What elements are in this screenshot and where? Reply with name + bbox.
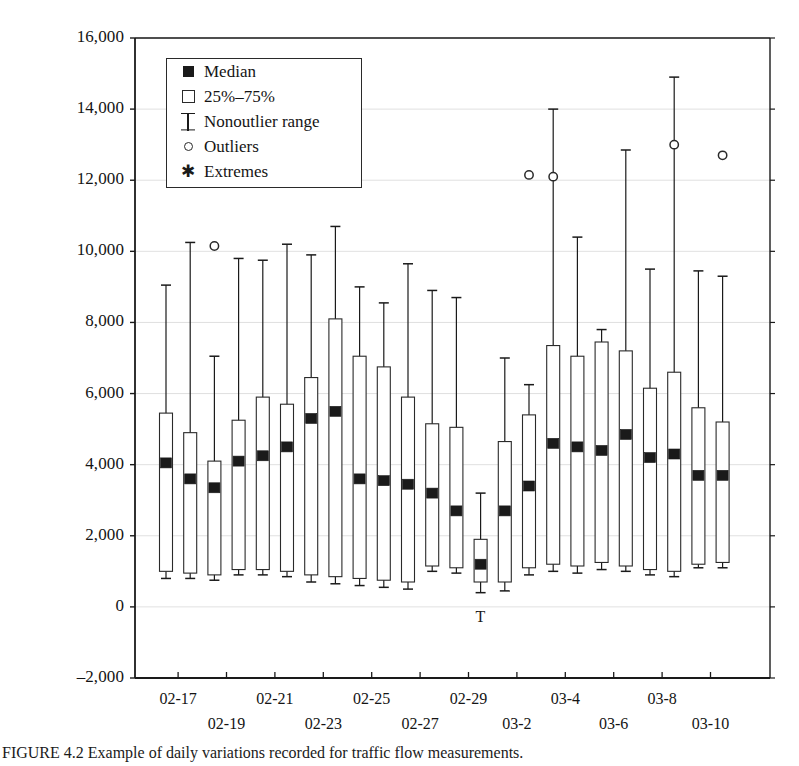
iqr-box xyxy=(281,404,294,571)
y-tick-label: 0 xyxy=(18,596,124,616)
x-tick-label: 02-19 xyxy=(187,715,267,733)
iqr-box xyxy=(692,408,705,564)
x-tick-label: 03-2 xyxy=(477,715,557,733)
iqr-box xyxy=(377,367,390,580)
median-marker xyxy=(378,476,389,486)
y-tick-label: 8,000 xyxy=(18,311,124,331)
y-tick-label: 2,000 xyxy=(18,525,124,545)
filled-square-icon xyxy=(176,66,200,77)
iqr-box xyxy=(668,372,681,571)
iqr-box xyxy=(571,356,584,566)
median-marker xyxy=(572,442,583,452)
iqr-box xyxy=(644,388,657,569)
box-plot-item xyxy=(619,150,632,571)
median-marker xyxy=(209,483,220,493)
median-marker xyxy=(185,474,196,484)
y-tick-label: 14,000 xyxy=(18,98,124,118)
median-marker xyxy=(403,479,414,489)
x-tick-label: 02-21 xyxy=(235,690,315,708)
median-marker xyxy=(620,429,631,439)
iqr-box xyxy=(619,351,632,566)
box-plot-item xyxy=(450,298,463,574)
legend-label-quartiles: 25%–75% xyxy=(204,87,275,107)
box-plot-item xyxy=(426,290,439,571)
box-plot-item xyxy=(184,242,197,578)
box-plot-item xyxy=(692,271,705,568)
median-marker xyxy=(282,442,293,452)
iqr-box xyxy=(184,433,197,573)
y-tick-label: –2,000 xyxy=(18,667,124,687)
box-plot-item xyxy=(498,358,511,591)
iqr-box xyxy=(547,346,560,565)
box-plot-item xyxy=(329,226,342,583)
iqr-box xyxy=(160,413,173,571)
legend-label-nonoutlier-range: Nonoutlier range xyxy=(204,112,320,132)
box-plot-item xyxy=(644,269,657,575)
box-plot-item xyxy=(281,244,294,576)
box-plot-item xyxy=(377,303,390,587)
box-plot-item xyxy=(474,493,487,593)
outlier-point xyxy=(210,242,218,250)
box-plot-item xyxy=(208,242,221,580)
outlier-point xyxy=(549,172,557,180)
median-marker xyxy=(524,481,535,491)
box-plot-item xyxy=(353,287,366,586)
y-tick-label: 16,000 xyxy=(18,27,124,47)
median-marker xyxy=(548,438,559,448)
box-plot-item xyxy=(595,330,608,570)
iqr-box xyxy=(716,422,729,562)
box-plot-item xyxy=(402,264,415,589)
box-plot-item xyxy=(523,171,536,575)
median-marker xyxy=(451,506,462,516)
outlier-point xyxy=(525,171,533,179)
box-plot-item xyxy=(668,77,681,577)
median-marker xyxy=(693,470,704,480)
t-annotation: T xyxy=(476,608,486,626)
x-tick-label: 02-29 xyxy=(429,690,509,708)
iqr-box xyxy=(232,420,245,569)
x-tick-label: 02-17 xyxy=(138,690,218,708)
asterisk-icon: ✱ xyxy=(176,166,200,178)
box-plot-item xyxy=(232,258,245,574)
median-marker xyxy=(475,559,486,569)
x-tick-label: 03-10 xyxy=(671,715,751,733)
box-plot-item xyxy=(256,260,269,575)
iqr-box xyxy=(305,378,318,575)
legend-item-nonoutlier-range: Nonoutlier range xyxy=(167,109,361,134)
open-square-icon xyxy=(176,90,200,103)
x-tick-label: 03-8 xyxy=(622,690,702,708)
x-tick-label: 03-4 xyxy=(525,690,605,708)
y-tick-label: 10,000 xyxy=(18,240,124,260)
median-marker xyxy=(717,470,728,480)
median-marker xyxy=(499,506,510,516)
legend-label-median: Median xyxy=(204,62,256,82)
median-marker xyxy=(427,488,438,498)
whisker-icon xyxy=(176,113,200,131)
median-marker xyxy=(330,406,341,416)
median-marker xyxy=(669,449,680,459)
iqr-box xyxy=(329,319,342,577)
iqr-box xyxy=(402,397,415,582)
x-tick-label: 02-27 xyxy=(380,715,460,733)
outlier-point xyxy=(670,140,678,148)
x-tick-label: 03-6 xyxy=(574,715,654,733)
median-marker xyxy=(354,474,365,484)
iqr-box xyxy=(450,427,463,567)
median-marker xyxy=(161,458,172,468)
iqr-box xyxy=(353,356,366,578)
x-tick-label: 02-23 xyxy=(283,715,363,733)
iqr-box xyxy=(256,397,269,569)
legend-item-outliers: Outliers xyxy=(167,134,361,159)
x-tick-label: 02-25 xyxy=(332,690,412,708)
figure-caption: FIGURE 4.2 Example of daily variations r… xyxy=(2,744,797,762)
y-tick-label: 12,000 xyxy=(18,169,124,189)
box-plot-item xyxy=(547,109,560,571)
median-marker xyxy=(233,456,244,466)
box-plot-item xyxy=(305,255,318,582)
iqr-box xyxy=(523,415,536,568)
median-marker xyxy=(306,413,317,423)
legend-label-extremes: Extremes xyxy=(204,162,268,182)
legend-item-quartiles: 25%–75% xyxy=(167,84,361,109)
legend-label-outliers: Outliers xyxy=(204,137,259,157)
chart-legend: Median 25%–75% Nonoutlier range Outliers… xyxy=(166,58,362,188)
